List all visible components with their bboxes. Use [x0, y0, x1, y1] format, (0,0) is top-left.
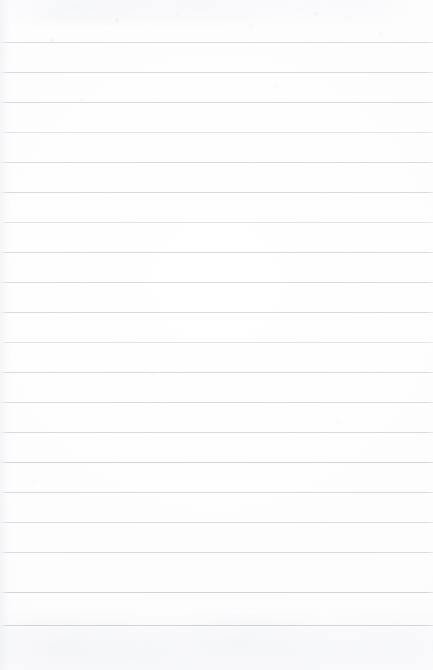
- ruled-line: [0, 312, 433, 313]
- ruled-line: [0, 252, 433, 253]
- ruled-line: [0, 72, 433, 73]
- ruled-lines-layer: [0, 0, 433, 670]
- ruled-line: [0, 102, 433, 103]
- ruled-line: [0, 42, 433, 43]
- ruled-line: [0, 462, 433, 463]
- ruled-line: [0, 162, 433, 163]
- ruled-line: [0, 402, 433, 403]
- ruled-line: [0, 625, 433, 626]
- ruled-line: [0, 432, 433, 433]
- ruled-line: [0, 282, 433, 283]
- scanned-page: [0, 0, 433, 670]
- ruled-line: [0, 592, 433, 593]
- ruled-line: [0, 342, 433, 343]
- ruled-line: [0, 132, 433, 133]
- ruled-line: [0, 522, 433, 523]
- ruled-line: [0, 372, 433, 373]
- ruled-line: [0, 492, 433, 493]
- ruled-line: [0, 192, 433, 193]
- ruled-line: [0, 552, 433, 553]
- ruled-line: [0, 222, 433, 223]
